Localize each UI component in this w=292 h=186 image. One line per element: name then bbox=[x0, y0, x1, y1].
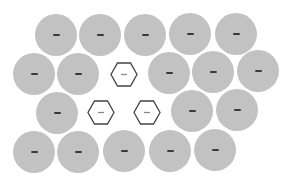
dash-mark-icon bbox=[233, 33, 240, 35]
circle-piece-r3c4[interactable] bbox=[171, 90, 213, 132]
circle-piece-r4c1[interactable] bbox=[13, 131, 55, 173]
hexagon-icon bbox=[87, 100, 115, 125]
circle-piece-r1c3[interactable] bbox=[124, 14, 166, 56]
circle-piece-r4c3[interactable] bbox=[103, 130, 145, 172]
dash-mark-icon bbox=[212, 149, 219, 151]
circle-piece-r3c5[interactable] bbox=[216, 89, 258, 131]
hexagon-icon bbox=[133, 100, 161, 125]
dash-mark-icon bbox=[53, 34, 60, 36]
dash-mark-icon bbox=[97, 34, 104, 36]
circle-piece-r2c1[interactable] bbox=[13, 53, 55, 95]
circle-piece-r2c4[interactable] bbox=[148, 52, 190, 94]
dash-mark-icon bbox=[31, 73, 38, 75]
dash-mark-icon bbox=[54, 112, 61, 114]
circle-piece-r1c1[interactable] bbox=[35, 14, 77, 56]
dash-mark-icon bbox=[167, 150, 174, 152]
game-board bbox=[0, 0, 292, 186]
circle-piece-r1c4[interactable] bbox=[169, 13, 211, 55]
dash-mark-icon bbox=[187, 33, 194, 35]
dash-mark-icon bbox=[121, 150, 128, 152]
dash-mark-icon bbox=[75, 73, 82, 75]
dash-mark-icon bbox=[166, 72, 173, 74]
hexagon-slot-r2c3[interactable] bbox=[110, 62, 138, 87]
hexagon-slot-r3c2[interactable] bbox=[87, 100, 115, 125]
dash-mark-icon bbox=[234, 109, 241, 111]
dash-mark-icon bbox=[31, 151, 38, 153]
hexagon-slot-r3c3[interactable] bbox=[133, 100, 161, 125]
circle-piece-r2c6[interactable] bbox=[237, 50, 279, 92]
circle-piece-r1c2[interactable] bbox=[79, 14, 121, 56]
circle-piece-r4c2[interactable] bbox=[57, 131, 99, 173]
circle-piece-r3c1[interactable] bbox=[36, 92, 78, 134]
dash-mark-icon bbox=[189, 110, 196, 112]
circle-piece-r1c5[interactable] bbox=[215, 13, 257, 55]
dash-mark-icon bbox=[255, 70, 262, 72]
dash-mark-icon bbox=[75, 151, 82, 153]
hexagon-icon bbox=[110, 62, 138, 87]
circle-piece-r2c5[interactable] bbox=[192, 51, 234, 93]
circle-piece-r4c4[interactable] bbox=[149, 130, 191, 172]
dash-mark-icon bbox=[142, 34, 149, 36]
circle-piece-r2c2[interactable] bbox=[57, 53, 99, 95]
dash-mark-icon bbox=[210, 71, 217, 73]
circle-piece-r4c5[interactable] bbox=[194, 129, 236, 171]
